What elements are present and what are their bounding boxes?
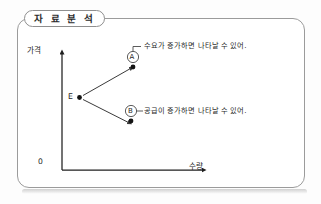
point-a-dot [131,65,136,70]
supply-demand-graph: 가격 수량 0 E A B 수요가 증가하면 나타날 수 있어. 공급이 증가하… [17,18,305,188]
leader-line-a [133,47,141,52]
panel-shadow [22,189,307,194]
arrow-e-to-b [83,100,129,123]
point-a-label: A [130,54,135,61]
figure-root: 자 료 분 석 [0,0,321,204]
point-b-label: B [128,108,133,115]
x-axis-label: 수량 [189,163,203,171]
point-b-dot [129,119,134,124]
y-axis-label: 가격 [27,47,41,55]
origin-label: 0 [38,158,43,166]
annotation-supply-increase: 공급이 증가하면 나타날 수 있어. [144,107,246,114]
annotation-demand-increase: 수요가 증가하면 나타날 수 있어. [144,42,246,49]
point-e-dot [77,95,82,100]
arrow-e-to-a [83,69,131,96]
point-e-label: E [68,93,73,101]
